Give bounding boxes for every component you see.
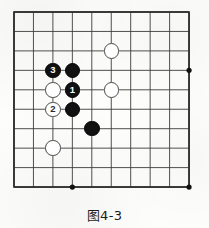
board-outline	[14, 12, 189, 187]
star-point-bottom-right-icon	[186, 184, 191, 189]
star-point-bottom-left-icon	[70, 184, 75, 189]
stone-move-number: 3	[50, 65, 55, 75]
go-board: 312	[0, 0, 209, 200]
grid-lines	[14, 12, 189, 187]
white-stone-bottom-left[interactable]	[45, 140, 61, 156]
star-point-right-icon	[186, 68, 191, 73]
black-stone-diagonal[interactable]	[84, 121, 100, 137]
board-border	[14, 12, 189, 187]
stone-move-number: 1	[70, 85, 75, 95]
white-stone-move-2[interactable]: 2	[45, 102, 61, 118]
white-stone-right[interactable]	[104, 82, 120, 98]
figure-root: 312 图4-3	[0, 0, 209, 228]
figure-caption: 图4-3	[0, 200, 209, 228]
black-stone-move-3[interactable]: 3	[45, 63, 61, 79]
white-stone-upper-right[interactable]	[104, 43, 120, 59]
black-stone-lower[interactable]	[65, 102, 81, 118]
board-grid-svg	[0, 0, 209, 200]
stone-move-number: 2	[50, 104, 55, 114]
white-stone-left[interactable]	[45, 82, 61, 98]
black-stone-move-1[interactable]: 1	[65, 82, 81, 98]
black-stone-top[interactable]	[65, 63, 81, 79]
